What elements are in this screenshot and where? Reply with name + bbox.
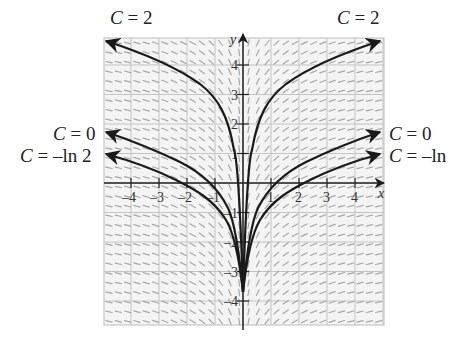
svg-text:–4: –4 (223, 294, 238, 309)
label-var: C (389, 145, 402, 166)
label-var: C (110, 7, 123, 28)
label-c-0-right: C = 0 (389, 124, 431, 143)
y-axis-label: y (228, 32, 237, 47)
label-eq: = 2 (350, 7, 380, 28)
svg-text:2: 2 (295, 190, 302, 205)
label-c-2-right: C = 2 (337, 8, 379, 27)
label-c-neg-ln2-left: C = –ln 2 (20, 146, 91, 165)
label-var: C (389, 123, 402, 144)
label-c-neg-ln2-right: C = –ln (389, 146, 446, 165)
svg-text:4: 4 (351, 190, 358, 205)
label-c-0-left: C = 0 (53, 124, 95, 143)
label-var: C (20, 145, 33, 166)
label-var: C (53, 123, 66, 144)
label-eq: = 0 (402, 123, 432, 144)
svg-text:–3: –3 (149, 190, 164, 205)
svg-text:3: 3 (231, 88, 238, 103)
svg-text:–2: –2 (177, 190, 192, 205)
svg-text:–4: –4 (121, 190, 136, 205)
label-eq: = –ln 2 (33, 145, 92, 166)
svg-text:3: 3 (323, 190, 330, 205)
label-var: C (337, 7, 350, 28)
x-axis-label: x (377, 186, 385, 201)
label-c-2-left: C = 2 (110, 8, 152, 27)
label-eq: = –ln (402, 145, 447, 166)
svg-text:2: 2 (231, 117, 238, 132)
slope-field-diagram: –4–3–2–112344321–1–2–3–4 x y (0, 0, 460, 341)
svg-text:–3: –3 (223, 265, 238, 280)
label-eq: = 0 (66, 123, 96, 144)
label-eq: = 2 (123, 7, 153, 28)
svg-text:4: 4 (231, 58, 238, 73)
